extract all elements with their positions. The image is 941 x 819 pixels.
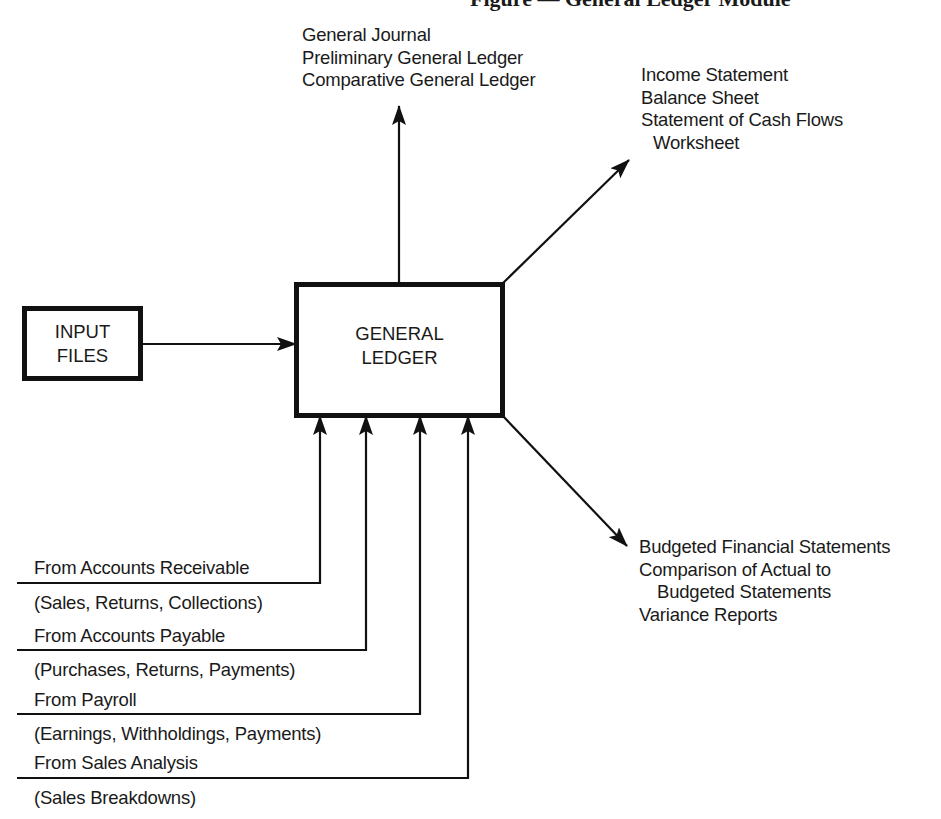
- output-income-statement: Income Statement: [641, 64, 843, 87]
- arrow-ledger-to-budgets: [502, 415, 627, 546]
- output-comparison-budgeted: Budgeted Statements: [639, 581, 890, 604]
- top-outputs-list: General Journal Preliminary General Ledg…: [302, 24, 535, 92]
- arrow-from-payable: [17, 416, 366, 650]
- input-files-label-2: FILES: [57, 344, 108, 368]
- input-payroll-detail: (Earnings, Withholdings, Payments): [34, 723, 321, 746]
- general-ledger-label-2: LEDGER: [361, 346, 437, 370]
- budget-reports-list: Budgeted Financial Statements Comparison…: [639, 536, 890, 626]
- arrow-ledger-to-statements: [502, 160, 629, 284]
- output-budgeted-statements: Budgeted Financial Statements: [639, 536, 890, 559]
- output-worksheet: Worksheet: [641, 132, 843, 155]
- input-payable-source: From Accounts Payable: [34, 625, 225, 648]
- input-payroll-source: From Payroll: [34, 689, 136, 712]
- input-files-label-1: INPUT: [55, 320, 111, 344]
- input-receivable-detail: (Sales, Returns, Collections): [34, 592, 263, 615]
- output-variance-reports: Variance Reports: [639, 604, 890, 627]
- input-sales-analysis-source: From Sales Analysis: [34, 752, 198, 775]
- input-files-box: INPUT FILES: [22, 306, 143, 381]
- financial-statements-list: Income Statement Balance Sheet Statement…: [641, 64, 843, 154]
- general-ledger-box: GENERAL LEDGER: [294, 282, 505, 418]
- input-sales-analysis-detail: (Sales Breakdowns): [34, 787, 196, 810]
- output-general-journal: General Journal: [302, 24, 535, 47]
- input-receivable-source: From Accounts Receivable: [34, 557, 249, 580]
- input-payable-detail: (Purchases, Returns, Payments): [34, 659, 295, 682]
- general-ledger-label-1: GENERAL: [355, 322, 443, 346]
- output-comparative-ledger: Comparative General Ledger: [302, 69, 535, 92]
- output-balance-sheet: Balance Sheet: [641, 87, 843, 110]
- output-preliminary-ledger: Preliminary General Ledger: [302, 47, 535, 70]
- output-comparison-actual: Comparison of Actual to: [639, 559, 890, 582]
- output-cash-flows: Statement of Cash Flows: [641, 109, 843, 132]
